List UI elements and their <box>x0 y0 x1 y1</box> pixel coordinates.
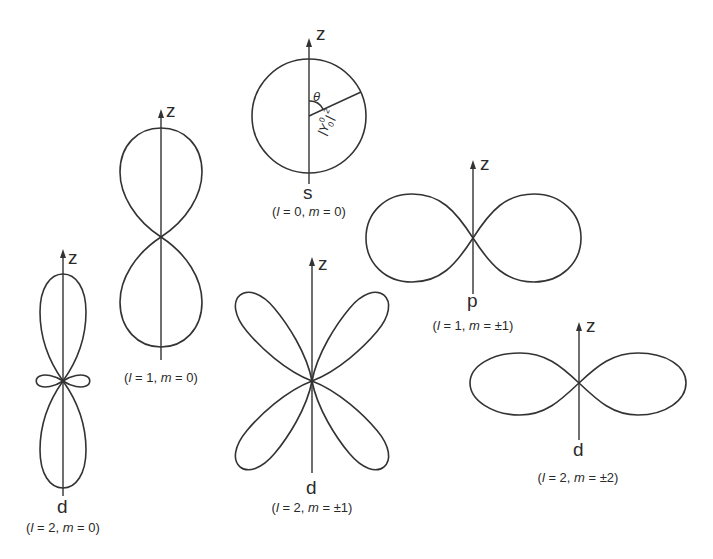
orbital-p-l1-m-pm1: z p (l = 1, m = ±1) <box>366 153 581 333</box>
quantum-numbers-caption: (l = 2, m = ±1) <box>272 500 353 515</box>
quantum-numbers-caption: (l = 1, m = 0) <box>124 370 198 385</box>
orbital-p-l1-m0: z (l = 1, m = 0) <box>120 100 202 385</box>
orbital-s-l0-m0: z θ |Y 0 0 | 2 s (l = 0, m = 0) <box>252 23 366 219</box>
quantum-numbers-caption: (l = 0, m = 0) <box>272 204 346 219</box>
quantum-numbers-caption: (l = 1, m = ±1) <box>433 318 514 333</box>
z-axis-label: z <box>318 253 328 274</box>
left-lobe <box>366 194 473 282</box>
left-lobe <box>470 353 579 415</box>
z-axis-arrow-icon <box>576 322 582 331</box>
orbital-letter: d <box>306 477 317 498</box>
radius-label: |Y 0 0 | 2 <box>312 106 340 138</box>
right-lobe <box>473 194 581 282</box>
quantum-numbers-caption: (l = 2, m = 0) <box>26 520 100 535</box>
z-axis-arrow-icon <box>470 160 476 169</box>
z-axis-arrow-icon <box>306 38 312 47</box>
lobe-lower-left <box>226 369 326 478</box>
theta-label: θ <box>313 89 320 104</box>
orbital-letter: d <box>573 439 584 460</box>
orbital-letter: d <box>57 496 68 517</box>
lobe-upper-right <box>298 284 398 393</box>
z-axis-label: z <box>316 23 326 44</box>
lobe-lower-right <box>298 369 398 478</box>
z-axis-label: z <box>166 100 176 121</box>
torus-left <box>36 375 63 387</box>
orbital-d-l2-m-pm2: z d (l = 2, m = ±2) <box>470 315 686 485</box>
orbital-letter: p <box>467 290 478 311</box>
z-axis-arrow-icon <box>158 109 164 118</box>
z-axis-arrow-icon <box>60 249 66 258</box>
spherical-harmonics-diagram: z θ |Y 0 0 | 2 s (l = 0, m = 0) z (l = 1… <box>0 0 713 559</box>
z-axis-arrow-icon <box>309 257 315 266</box>
z-axis-label: z <box>68 247 78 268</box>
torus-right <box>63 375 90 387</box>
z-axis-label: z <box>586 315 596 336</box>
lobe-upper-left <box>226 284 326 393</box>
quantum-numbers-caption: (l = 2, m = ±2) <box>538 470 619 485</box>
right-lobe <box>579 353 686 415</box>
z-axis-label: z <box>480 153 490 174</box>
orbital-letter: s <box>303 182 313 203</box>
orbital-d-l2-m-pm1: z d (l = 2, m = ±1) <box>226 253 398 515</box>
orbital-d-l2-m0: z d (l = 2, m = 0) <box>26 247 100 535</box>
